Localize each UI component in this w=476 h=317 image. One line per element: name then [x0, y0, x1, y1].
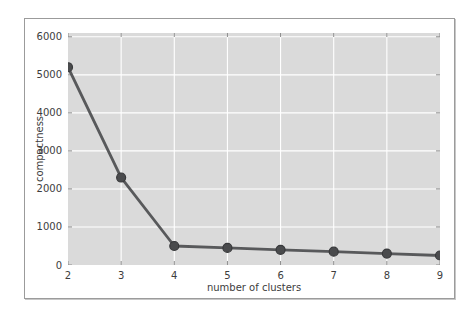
line-chart-svg	[68, 33, 440, 265]
data-point	[329, 247, 338, 256]
y-tick-label: 5000	[25, 68, 62, 81]
x-axis-label: number of clusters	[68, 282, 440, 293]
x-tick-label: 6	[266, 269, 296, 282]
y-tick-label: 4000	[25, 106, 62, 119]
plot-area	[68, 33, 440, 265]
data-point	[68, 63, 73, 72]
y-tick-label: 3000	[25, 144, 62, 157]
data-point	[170, 241, 179, 250]
x-tick-label: 4	[159, 269, 189, 282]
y-tick-label: 2000	[25, 182, 62, 195]
data-point	[117, 173, 126, 182]
y-tick-label: 1000	[25, 220, 62, 233]
x-tick-label: 7	[319, 269, 349, 282]
x-tick-label: 9	[425, 269, 455, 282]
x-tick-label: 2	[53, 269, 83, 282]
x-tick-label: 5	[212, 269, 242, 282]
data-point	[382, 249, 391, 258]
y-tick-label: 6000	[25, 30, 62, 43]
data-point	[436, 251, 441, 260]
x-tick-label: 3	[106, 269, 136, 282]
data-point	[276, 245, 285, 254]
data-point	[223, 243, 232, 252]
x-tick-label: 8	[372, 269, 402, 282]
plot-background	[68, 33, 440, 265]
chart-figure: compactness 0100020003000400050006000 23…	[24, 18, 455, 299]
screenshot-canvas: compactness 0100020003000400050006000 23…	[0, 0, 476, 317]
